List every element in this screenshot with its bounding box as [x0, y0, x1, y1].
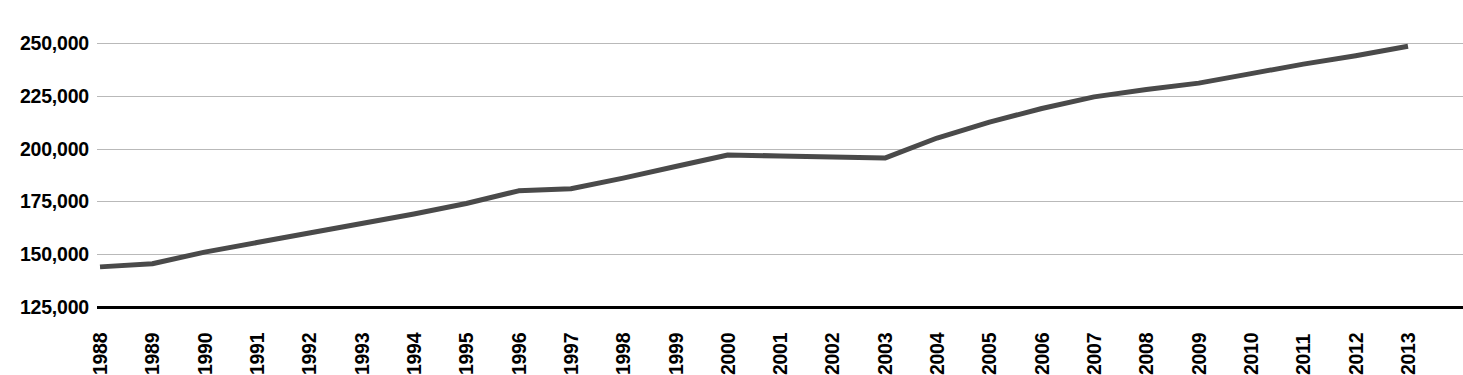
x-tick-label: 2004 [927, 312, 947, 375]
x-tick-label: 2002 [822, 312, 842, 375]
x-tick-label: 1995 [456, 312, 476, 375]
x-axis: 1988198919901991199219931994199519961997… [97, 312, 1463, 375]
y-tick-label: 125,000 [20, 296, 89, 319]
y-tick-label: 225,000 [20, 84, 89, 107]
x-tick-label: 1989 [142, 312, 162, 375]
x-tick-label: 2011 [1293, 312, 1313, 375]
x-tick-label: 2013 [1398, 312, 1418, 375]
x-tick-label: 1993 [352, 312, 372, 375]
x-tick-label: 1994 [404, 312, 424, 375]
x-tick-label: 1999 [666, 312, 686, 375]
x-tick-label: 2000 [718, 312, 738, 375]
x-tick-label: 1997 [561, 312, 581, 375]
x-tick-label: 2007 [1084, 312, 1104, 375]
x-tick-label: 1992 [299, 312, 319, 375]
x-tick-label: 2006 [1032, 312, 1052, 375]
x-tick-label: 2010 [1241, 312, 1261, 375]
y-axis: 125,000150,000175,000200,000225,000250,0… [0, 0, 95, 375]
x-tick-label: 1990 [195, 312, 215, 375]
x-tick-label: 1998 [613, 312, 633, 375]
x-tick-label: 2003 [875, 312, 895, 375]
x-tick-label: 1991 [247, 312, 267, 375]
x-tick-label: 2009 [1189, 312, 1209, 375]
series-line-0 [100, 46, 1408, 267]
x-tick-label: 1988 [90, 312, 110, 375]
y-tick-label: 250,000 [20, 32, 89, 55]
x-tick-label: 2012 [1346, 312, 1366, 375]
x-tick-label: 2001 [770, 312, 790, 375]
x-tick-label: 1996 [509, 312, 529, 375]
x-tick-label: 2005 [979, 312, 999, 375]
y-tick-label: 175,000 [20, 190, 89, 213]
x-tick-label: 2008 [1136, 312, 1156, 375]
y-tick-label: 150,000 [20, 243, 89, 266]
y-tick-label: 200,000 [20, 137, 89, 160]
line-chart: 125,000150,000175,000200,000225,000250,0… [0, 0, 1463, 375]
